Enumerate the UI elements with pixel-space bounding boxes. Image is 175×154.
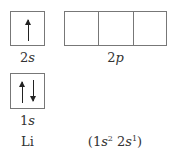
electron-configuration: (1s2 2s1) <box>80 135 150 149</box>
orbital-box-1s <box>10 73 45 109</box>
orbital-letter: s <box>28 113 35 128</box>
orbital-label-1s: 1s <box>10 114 45 128</box>
spin-up-arrow-icon <box>28 20 29 41</box>
orbital-divider <box>98 12 99 45</box>
element-symbol: Li <box>10 135 45 149</box>
orbital-label-2s: 2s <box>10 51 45 65</box>
paren-close: ) <box>137 134 142 149</box>
orbital-box-2p <box>64 11 167 46</box>
spin-down-arrow-icon <box>33 80 34 101</box>
orbital-letter: p <box>115 50 123 65</box>
config-letter: s <box>125 134 132 149</box>
orbital-box-2s <box>10 11 45 46</box>
config-orbital: 1 <box>93 134 101 149</box>
spin-up-arrow-icon <box>22 82 23 103</box>
orbital-label-2p: 2p <box>64 51 167 65</box>
config-letter: s <box>101 134 108 149</box>
orbital-letter: s <box>28 50 35 65</box>
config-electrons: 2 <box>108 134 113 143</box>
orbital-divider <box>133 12 134 45</box>
